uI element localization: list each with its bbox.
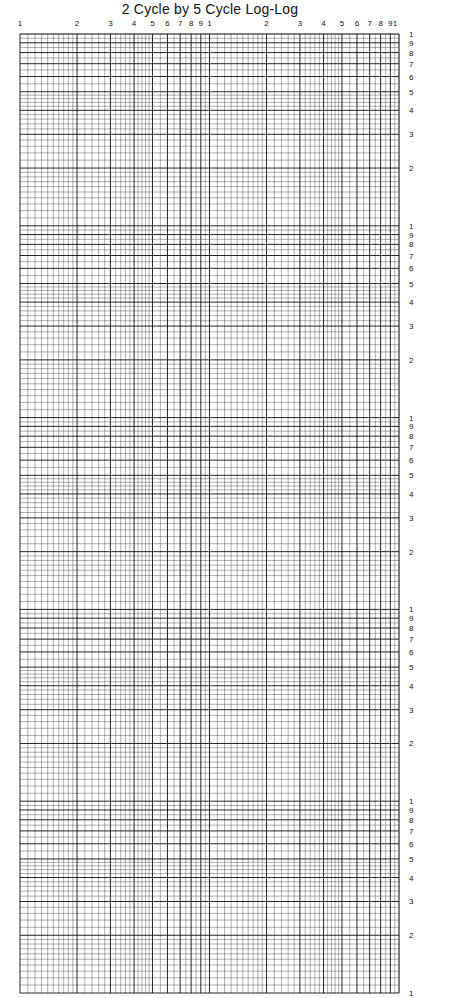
y-tick-label: 9 bbox=[409, 422, 413, 431]
y-tick-label: 4 bbox=[409, 489, 413, 498]
y-tick-label: 1 bbox=[409, 605, 413, 614]
y-tick-label: 3 bbox=[409, 130, 413, 139]
y-tick-label: 1 bbox=[409, 989, 413, 998]
y-tick-label: 6 bbox=[409, 839, 413, 848]
y-tick-label: 2 bbox=[409, 164, 413, 173]
x-tick-label: 6 bbox=[355, 19, 359, 28]
y-tick-label: 1 bbox=[409, 797, 413, 806]
y-tick-label: 9 bbox=[409, 805, 413, 814]
y-tick-label: 4 bbox=[409, 681, 413, 690]
y-tick-label: 6 bbox=[409, 647, 413, 656]
y-tick-label: 8 bbox=[409, 48, 413, 57]
x-tick-label: 2 bbox=[264, 19, 268, 28]
y-tick-label: 7 bbox=[409, 59, 413, 68]
y-tick-label: 2 bbox=[409, 355, 413, 364]
x-tick-label: 8 bbox=[189, 19, 193, 28]
x-tick-label: 4 bbox=[132, 19, 136, 28]
x-tick-label: 5 bbox=[340, 19, 344, 28]
y-tick-label: 7 bbox=[409, 826, 413, 835]
y-tick-label: 5 bbox=[409, 471, 413, 480]
y-tick-label: 8 bbox=[409, 815, 413, 824]
y-tick-label: 2 bbox=[409, 931, 413, 940]
y-tick-label: 8 bbox=[409, 240, 413, 249]
y-tick-label: 6 bbox=[409, 72, 413, 81]
x-tick-label: 1 bbox=[207, 19, 211, 28]
y-tick-label: 3 bbox=[409, 513, 413, 522]
y-tick-label: 5 bbox=[409, 663, 413, 672]
y-tick-label: 8 bbox=[409, 432, 413, 441]
y-tick-label: 4 bbox=[409, 873, 413, 882]
x-tick-label: 7 bbox=[178, 19, 182, 28]
x-tick-label: 3 bbox=[108, 19, 112, 28]
y-tick-label: 9 bbox=[409, 614, 413, 623]
y-tick-label: 3 bbox=[409, 897, 413, 906]
x-tick-label: 4 bbox=[321, 19, 325, 28]
y-tick-label: 6 bbox=[409, 456, 413, 465]
y-tick-label: 3 bbox=[409, 322, 413, 331]
y-tick-label: 7 bbox=[409, 251, 413, 260]
y-tick-label: 5 bbox=[409, 279, 413, 288]
x-tick-label: 2 bbox=[75, 19, 79, 28]
y-tick-label: 4 bbox=[409, 106, 413, 115]
y-tick-label: 9 bbox=[409, 38, 413, 47]
y-tick-label: 1 bbox=[409, 30, 413, 39]
y-tick-label: 9 bbox=[409, 230, 413, 239]
y-tick-label: 1 bbox=[409, 413, 413, 422]
y-tick-label: 2 bbox=[409, 739, 413, 748]
y-tick-label: 3 bbox=[409, 705, 413, 714]
x-tick-label: 9 bbox=[199, 19, 203, 28]
y-tick-label: 2 bbox=[409, 547, 413, 556]
y-tick-label: 4 bbox=[409, 298, 413, 307]
x-tick-label: 7 bbox=[367, 19, 371, 28]
y-tick-label: 8 bbox=[409, 623, 413, 632]
y-tick-label: 5 bbox=[409, 87, 413, 96]
x-tick-label: 5 bbox=[150, 19, 154, 28]
y-tick-label: 1 bbox=[409, 221, 413, 230]
log-log-grid bbox=[0, 0, 467, 998]
x-tick-label: 3 bbox=[298, 19, 302, 28]
x-tick-label: 6 bbox=[165, 19, 169, 28]
y-tick-label: 7 bbox=[409, 635, 413, 644]
x-tick-label: 8 bbox=[378, 19, 382, 28]
y-tick-label: 7 bbox=[409, 443, 413, 452]
x-tick-label: 1 bbox=[18, 19, 22, 28]
y-tick-label: 6 bbox=[409, 264, 413, 273]
y-tick-label: 5 bbox=[409, 854, 413, 863]
x-tick-label: 1 bbox=[393, 19, 397, 28]
